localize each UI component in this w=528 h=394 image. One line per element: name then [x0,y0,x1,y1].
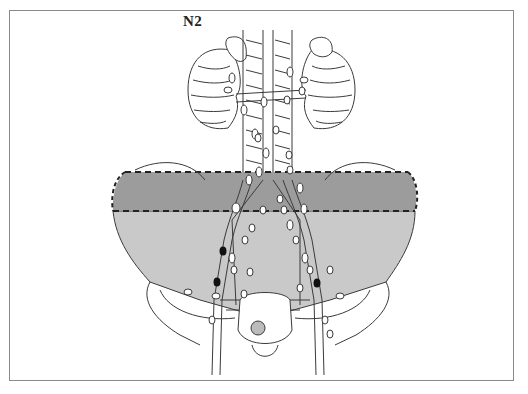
right-kidney [302,37,355,128]
shaded-band [112,163,417,211]
anatomy-illustration [0,0,528,394]
bladder [238,293,292,357]
left-kidney [188,37,246,129]
